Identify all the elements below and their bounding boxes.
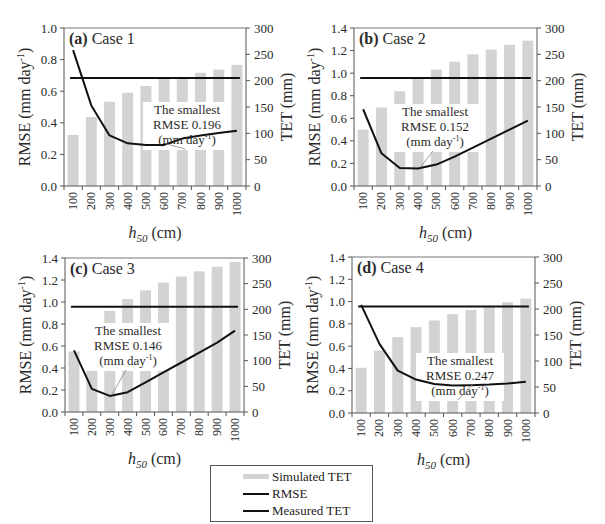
bar — [376, 108, 387, 186]
svg-text:The smallest: The smallest — [95, 323, 161, 338]
x-tick-label: 400 — [409, 419, 423, 437]
min-rmse-annotation: The smallestRMSE 0.247(mm day-1) — [426, 353, 494, 400]
legend-item-measured-tet: Measured TET — [211, 502, 372, 519]
legend-label: RMSE — [272, 486, 307, 502]
x-tick-label: 100 — [354, 419, 368, 437]
x-tick-label: 200 — [85, 418, 99, 436]
x-tick-label: 700 — [464, 419, 478, 437]
bar — [86, 117, 97, 186]
bar — [194, 271, 205, 412]
right-axis-label: TET (mm) — [276, 301, 294, 370]
x-tick-label: 500 — [139, 418, 153, 436]
bar — [104, 102, 115, 186]
x-tick-label: 400 — [121, 192, 135, 210]
left-axis-label: RMSE (mm day-1) — [303, 276, 322, 395]
right-tick-label: 100 — [545, 126, 565, 141]
min-rmse-annotation: The smallestRMSE 0.196(mm day-1) — [153, 102, 221, 149]
figure-canvas: 0.00.20.40.60.81.00501001502002503001002… — [0, 0, 605, 524]
panel-title: (a) Case 1 — [69, 30, 135, 48]
left-tick-label: 0.4 — [42, 361, 59, 376]
right-tick-label: 100 — [543, 354, 563, 369]
svg-text:RMSE 0.247: RMSE 0.247 — [426, 368, 494, 383]
x-tick-label: 800 — [194, 192, 208, 210]
left-tick-label: 1.4 — [329, 250, 346, 265]
x-tick-label: 500 — [139, 192, 153, 210]
right-axis-label: TET (mm) — [567, 301, 585, 370]
right-tick-label: 300 — [545, 21, 565, 36]
x-tick-label: 200 — [374, 192, 388, 210]
right-tick-label: 50 — [545, 152, 558, 167]
right-tick-label: 150 — [545, 100, 565, 115]
right-axis-label: TET (mm) — [569, 73, 587, 142]
legend-label: Measured TET — [272, 503, 350, 519]
left-tick-label: 0.6 — [41, 84, 58, 99]
svg-text:RMSE 0.152: RMSE 0.152 — [401, 119, 469, 134]
x-tick-label: 900 — [212, 192, 226, 210]
left-tick-label: 0.4 — [41, 115, 58, 130]
svg-text:RMSE 0.196: RMSE 0.196 — [153, 117, 221, 132]
right-tick-label: 250 — [543, 276, 563, 291]
right-tick-label: 200 — [254, 73, 274, 88]
right-tick-label: 0 — [254, 179, 261, 194]
panel-b: 0.00.20.40.60.81.01.21.40501001502002503… — [305, 21, 587, 245]
right-tick-label: 100 — [254, 126, 274, 141]
right-axis-label: TET (mm) — [278, 73, 296, 142]
bar — [231, 65, 242, 186]
x-tick-label: 900 — [501, 419, 515, 437]
x-tick-label: 700 — [174, 418, 188, 436]
bar — [486, 50, 497, 186]
x-tick-label: 1000 — [519, 419, 533, 443]
x-tick-label: 500 — [427, 419, 441, 437]
panel-c: 0.00.20.40.60.81.01.21.40501001502002503… — [16, 251, 294, 471]
x-tick-label: 800 — [482, 419, 496, 437]
x-tick-label: 900 — [503, 192, 517, 210]
x-tick-label: 600 — [446, 419, 460, 437]
legend-item-rmse: RMSE — [211, 485, 372, 502]
panel-d: 0.00.20.40.60.81.01.21.40501001502002503… — [303, 250, 585, 472]
left-tick-label: 0.4 — [329, 361, 346, 376]
right-tick-label: 150 — [543, 328, 563, 343]
bar — [504, 45, 515, 186]
left-tick-label: 0.0 — [42, 405, 58, 420]
x-tick-label: 600 — [157, 192, 171, 210]
x-tick-label: 300 — [393, 192, 407, 210]
left-tick-label: 0.6 — [42, 339, 59, 354]
right-tick-label: 0 — [543, 406, 550, 421]
right-tick-label: 100 — [252, 353, 272, 368]
right-tick-label: 50 — [543, 380, 556, 395]
left-tick-label: 1.2 — [42, 273, 58, 288]
x-tick-label: 700 — [466, 192, 480, 210]
x-tick-label: 800 — [484, 192, 498, 210]
left-tick-label: 1.4 — [42, 251, 59, 266]
x-tick-label: 100 — [356, 192, 370, 210]
left-tick-label: 1.0 — [42, 295, 58, 310]
panel-title: (d) Case 4 — [357, 259, 424, 277]
bar — [358, 130, 369, 186]
right-tick-label: 300 — [252, 251, 272, 266]
x-tick-label: 100 — [67, 418, 81, 436]
x-tick-label: 500 — [429, 192, 443, 210]
left-tick-label: 0.8 — [41, 52, 57, 67]
left-tick-label: 1.2 — [329, 272, 345, 287]
right-tick-label: 150 — [252, 328, 272, 343]
right-tick-label: 250 — [252, 276, 272, 291]
bar — [230, 262, 241, 412]
svg-text:The smallest: The smallest — [427, 353, 493, 368]
right-tick-label: 0 — [252, 405, 259, 420]
x-axis-label: h50 (cm) — [128, 450, 181, 470]
x-tick-label: 400 — [121, 418, 135, 436]
svg-text:The smallest: The smallest — [402, 104, 468, 119]
left-tick-label: 1.0 — [41, 21, 57, 36]
panel-title: (c) Case 3 — [70, 260, 135, 278]
bar — [522, 41, 533, 186]
legend-item-simulated-tet: Simulated TET — [211, 468, 372, 485]
x-tick-label: 200 — [372, 419, 386, 437]
x-tick-label: 800 — [192, 418, 206, 436]
bar — [68, 135, 79, 186]
x-tick-label: 200 — [84, 192, 98, 210]
left-tick-label: 1.0 — [331, 66, 347, 81]
x-tick-label: 300 — [103, 418, 117, 436]
left-tick-label: 1.0 — [329, 294, 345, 309]
x-axis-label: h50 (cm) — [419, 224, 472, 244]
right-tick-label: 200 — [543, 302, 563, 317]
